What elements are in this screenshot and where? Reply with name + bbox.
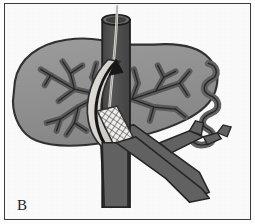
- anatomical-illustration: [5, 4, 250, 219]
- panel-label: B: [17, 198, 27, 213]
- scan-texture: [5, 4, 250, 219]
- figure-border-frame: B: [4, 3, 251, 220]
- figure-panel: B: [0, 0, 255, 224]
